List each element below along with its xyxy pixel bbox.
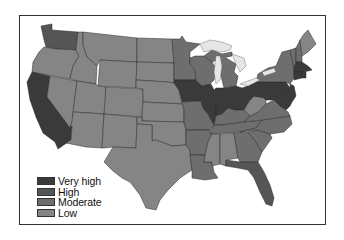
legend-swatch-high [37, 188, 55, 196]
state-KS [142, 102, 184, 122]
state-SD [136, 62, 174, 83]
legend-label-moderate: Moderate [58, 197, 102, 207]
legend-label-very-high: Very high [58, 176, 101, 186]
legend-label-high: High [58, 187, 79, 197]
state-NM [102, 114, 137, 148]
legend-swatch-very-high [37, 177, 55, 185]
legend-item-very-high: Very high [37, 176, 102, 187]
state-WA [41, 24, 78, 50]
state-WY [98, 60, 137, 88]
state-MA [294, 62, 312, 72]
lake-superior [200, 40, 232, 52]
state-NY [256, 50, 294, 84]
state-FL [226, 160, 274, 206]
legend-label-low: Low [58, 208, 77, 218]
state-RI [302, 72, 306, 78]
state-ND [137, 38, 174, 63]
legend-item-low: Low [37, 208, 102, 219]
state-CO [104, 87, 143, 117]
state-CT [294, 72, 302, 80]
state-ME [300, 30, 316, 56]
legend-item-moderate: Moderate [37, 197, 102, 208]
map-legend: Very high High Moderate Low [37, 176, 102, 218]
legend-swatch-low [37, 209, 55, 217]
legend-swatch-moderate [37, 198, 55, 206]
